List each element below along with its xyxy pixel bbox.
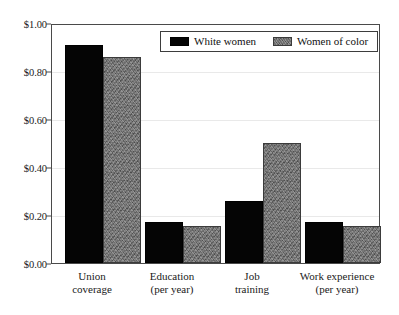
legend-entry-women-of-color: Women of color [273,35,368,47]
legend-label: White women [194,35,256,47]
x-axis-category-line2: (per year) [282,283,392,296]
bar-chart: $1.00 $0.80 $0.60 $0.40 $0.20 $0.00 [0,0,399,315]
y-axis-tick-label: $0.20 [0,211,47,222]
y-axis-tick-label: $0.80 [0,67,47,78]
legend-entry-white-women: White women [170,35,256,47]
x-axis-category-line1: Education [150,270,195,282]
bar-women-of-color-job-training [263,143,301,263]
x-axis-category-line1: Job [244,270,259,282]
legend-swatch-icon [273,37,292,46]
x-axis-category-work-experience: Work experience (per year) [282,270,392,297]
plot-area [51,24,380,264]
y-axis-tick-label: $0.40 [0,163,47,174]
bar-white-women-education [145,222,183,263]
legend-swatch-icon [170,37,189,46]
bar-women-of-color-work-experience [343,226,381,263]
chart-legend: White women Women of color [160,31,378,52]
bar-white-women-work-experience [305,222,343,263]
y-axis-tick-label: $0.60 [0,115,47,126]
bar-women-of-color-union-coverage [103,57,141,263]
bar-women-of-color-education [183,226,221,263]
y-axis-tick-label: $1.00 [0,19,47,30]
bar-white-women-job-training [225,201,263,263]
y-axis-tick-label: $0.00 [0,259,47,270]
bar-white-women-union-coverage [65,45,103,263]
legend-label: Women of color [297,35,368,47]
x-axis-category-line1: Union [78,270,106,282]
x-axis-category-line1: Work experience [300,270,375,282]
